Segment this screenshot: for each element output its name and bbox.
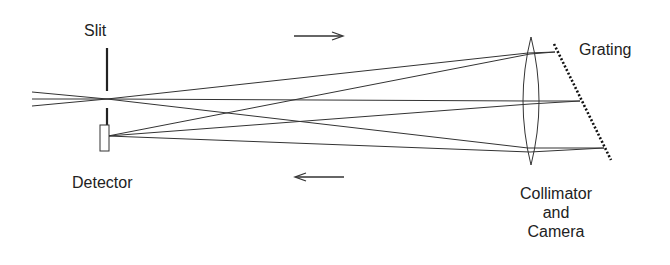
collimator-rays [107, 52, 604, 148]
collimator-camera-label: Collimator and Camera [491, 184, 621, 241]
grating-label: Grating [579, 40, 631, 59]
collimator-label-line1: Collimator [491, 184, 621, 203]
camera-rays [108, 52, 604, 152]
incoming-rays [32, 92, 107, 106]
detector-label: Detector [72, 173, 132, 192]
collimator-label-line2: and [491, 203, 621, 222]
arrow-right-icon [294, 32, 343, 40]
arrow-left-icon [295, 173, 344, 181]
collimator-label-line3: Camera [491, 222, 621, 241]
detector [100, 125, 109, 151]
slit-label: Slit [84, 21, 106, 40]
